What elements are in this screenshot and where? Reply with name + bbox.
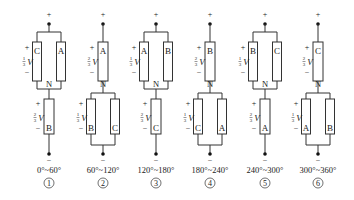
fraction-denominator: 3 [239, 62, 242, 67]
positive-terminal-sign: + [208, 10, 213, 19]
resistor-label: B [165, 46, 171, 56]
resistor-label: B [250, 46, 256, 56]
circuit-diagram: +CA+13V−NB+23V−−0°~60°1+A+23V−NBC+13V−−6… [0, 0, 354, 200]
resistor-label: C [34, 46, 40, 56]
voltage-label: +23V− [141, 99, 153, 133]
voltage-label: +23V− [34, 99, 46, 133]
fraction-numerator: 1 [184, 112, 187, 117]
fraction-denominator: 3 [23, 62, 26, 67]
fraction-numerator: 2 [195, 56, 198, 61]
panel-5: +BC+13V−NA+23V−−240°~300°5 [239, 10, 284, 188]
fraction-numerator: 2 [141, 112, 144, 117]
resistor-label: B [46, 123, 52, 133]
panel-number: 1 [47, 179, 51, 188]
fraction-numerator: 2 [34, 112, 37, 117]
panel-number: 3 [154, 179, 158, 188]
panel-number: 5 [263, 179, 267, 188]
minus-sign: − [79, 124, 84, 133]
resistor-label: A [100, 46, 107, 56]
positive-terminal-sign: + [101, 10, 106, 19]
minus-sign: − [294, 124, 299, 133]
negative-terminal-sign: − [154, 156, 159, 165]
fraction-denominator: 3 [88, 62, 91, 67]
resistor-label: C [274, 46, 280, 56]
minus-sign: − [132, 68, 137, 77]
negative-terminal-sign: − [316, 156, 321, 165]
minus-sign: − [197, 68, 202, 77]
resistor-label: A [219, 123, 226, 133]
minus-sign: − [90, 68, 95, 77]
fraction-denominator: 3 [141, 118, 144, 123]
resistor-label: A [262, 123, 269, 133]
minus-sign: − [25, 68, 30, 77]
resistor-label: C [195, 123, 201, 133]
neutral-label: N [262, 79, 268, 89]
plus-sign: + [241, 43, 246, 52]
negative-terminal-sign: − [101, 156, 106, 165]
plus-sign: + [143, 99, 148, 108]
minus-sign: − [305, 68, 310, 77]
positive-terminal-sign: + [47, 10, 52, 19]
fraction-denominator: 3 [250, 118, 253, 123]
resistor-label: A [58, 46, 65, 56]
fraction-numerator: 2 [303, 56, 306, 61]
plus-sign: + [186, 99, 191, 108]
fraction-numerator: 1 [239, 56, 242, 61]
voltage-label: +23V− [303, 43, 315, 77]
angle-range-label: 60°~120° [87, 165, 120, 175]
negative-terminal-sign: − [208, 156, 213, 165]
panel-2: +A+23V−NBC+13V−−60°~120°2 [77, 10, 120, 188]
positive-terminal-sign: + [154, 10, 159, 19]
panel-4: +B+23V−NCA+13V−−180°~240°4 [184, 10, 229, 188]
resistor-label: A [141, 46, 148, 56]
plus-sign: + [25, 43, 30, 52]
positive-terminal-sign: + [316, 10, 321, 19]
fraction-denominator: 3 [130, 62, 133, 67]
voltage-label: +23V− [250, 99, 262, 133]
fraction-denominator: 3 [292, 118, 295, 123]
resistor-label: C [153, 123, 159, 133]
voltage-label: +23V− [88, 43, 100, 77]
angle-range-label: 180°~240° [192, 165, 229, 175]
plus-sign: + [132, 43, 137, 52]
resistor-label: C [315, 46, 321, 56]
plus-sign: + [79, 99, 84, 108]
angle-range-label: 240°~300° [247, 165, 284, 175]
fraction-denominator: 3 [77, 118, 80, 123]
angle-range-label: 0°~60° [37, 165, 61, 175]
resistor-label: A [303, 123, 310, 133]
panel-3: +AB+13V−NC+23V−−120°~180°3 [130, 10, 175, 188]
plus-sign: + [305, 43, 310, 52]
neutral-label: N [207, 79, 213, 89]
fraction-numerator: 2 [88, 56, 91, 61]
fraction-denominator: 3 [303, 62, 306, 67]
minus-sign: − [36, 124, 41, 133]
panel-number: 2 [101, 179, 105, 188]
fraction-denominator: 3 [184, 118, 187, 123]
negative-terminal-sign: − [263, 156, 268, 165]
resistor-label: B [88, 123, 94, 133]
fraction-numerator: 1 [77, 112, 80, 117]
panel-number: 6 [316, 179, 320, 188]
neutral-label: N [315, 79, 321, 89]
fraction-numerator: 1 [292, 112, 295, 117]
positive-terminal-sign: + [263, 10, 268, 19]
resistor-label: B [327, 123, 333, 133]
fraction-numerator: 1 [130, 56, 133, 61]
neutral-label: N [46, 79, 52, 89]
fraction-denominator: 3 [34, 118, 37, 123]
fraction-numerator: 2 [250, 112, 253, 117]
minus-sign: − [252, 124, 257, 133]
minus-sign: − [143, 124, 148, 133]
resistor-label: B [207, 46, 213, 56]
voltage-label: +23V− [195, 43, 207, 77]
fraction-denominator: 3 [195, 62, 198, 67]
plus-sign: + [90, 43, 95, 52]
plus-sign: + [252, 99, 257, 108]
panel-6: +C+23V−NAB+13V−−300°~360°6 [292, 10, 337, 188]
plus-sign: + [197, 43, 202, 52]
angle-range-label: 120°~180° [138, 165, 175, 175]
fraction-numerator: 1 [23, 56, 26, 61]
negative-terminal-sign: − [47, 156, 52, 165]
panel-number: 4 [208, 179, 212, 188]
